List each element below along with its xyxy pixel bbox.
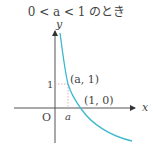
curve bbox=[60, 33, 132, 141]
point-a1-label: (a, 1) bbox=[70, 73, 99, 86]
graph: y x O 1 a (a, 1) (1, 0) bbox=[0, 0, 153, 150]
point-10-label: (1, 0) bbox=[84, 94, 114, 107]
x-tick-label: a bbox=[65, 111, 71, 122]
y-tick-label: 1 bbox=[47, 79, 53, 90]
x-axis-label: x bbox=[142, 101, 149, 114]
origin-label: O bbox=[42, 111, 51, 124]
y-axis-label: y bbox=[55, 18, 63, 31]
